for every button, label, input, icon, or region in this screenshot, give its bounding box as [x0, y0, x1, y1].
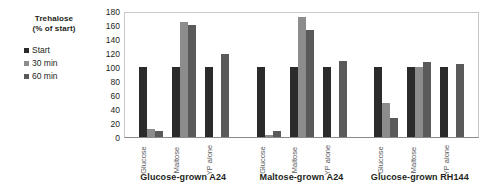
category-cell: YP alone [204, 139, 228, 171]
legend-swatch-30min [24, 61, 29, 66]
y-tick-100: 100 [106, 64, 120, 72]
legend-swatch-60min [24, 74, 29, 79]
category-label-glucose: Glucose [139, 146, 161, 174]
bar-cluster-yp-alone [323, 13, 347, 137]
category-group-3: GlucoseMaltoseYP alone [361, 139, 479, 171]
bar-30-min [180, 22, 188, 138]
category-cell: Glucose [138, 139, 162, 171]
bar-cluster-maltose [290, 13, 314, 137]
legend-label-start: Start [32, 45, 50, 56]
y-tick-0: 0 [115, 134, 120, 142]
legend-swatch-start [24, 48, 29, 53]
bar-start [139, 67, 147, 137]
bar-60-min [306, 30, 314, 137]
bar-start [440, 67, 448, 137]
category-label-glucose: Glucose [376, 146, 398, 174]
bar-start [290, 67, 298, 137]
bar-cluster-maltose [172, 13, 196, 137]
y-tick-160: 160 [106, 22, 120, 30]
legend-item-start: Start [24, 44, 102, 57]
group-title-2: Maltose-grown A24 [242, 172, 360, 182]
bar-30-min [298, 17, 306, 137]
category-group-2: GlucoseMaltoseYP alone [242, 139, 360, 171]
category-label-glucose: Glucose [257, 146, 279, 174]
bar-group-3 [360, 13, 478, 137]
bar-cluster-yp-alone [205, 13, 229, 137]
bar-cluster-glucose [374, 13, 398, 137]
y-tick-140: 140 [106, 36, 120, 44]
bar-30-min [265, 135, 273, 137]
y-tick-80: 80 [111, 78, 120, 86]
bar-30-min [147, 129, 155, 137]
category-cell: Glucose [375, 139, 399, 171]
x-axis-group-labels: Glucose-grown A24Maltose-grown A24Glucos… [124, 172, 479, 182]
bar-30-min [415, 67, 423, 137]
bar-60-min [221, 54, 229, 137]
bar-cluster-glucose [139, 13, 163, 137]
legend-item-60min: 60 min [24, 70, 102, 83]
category-label-maltose: Maltose [409, 147, 431, 173]
category-group-1: GlucoseMaltoseYP alone [124, 139, 242, 171]
legend-title-line2: (% of start) [6, 24, 102, 34]
bar-group-2 [243, 13, 361, 137]
bar-60-min [339, 61, 347, 137]
bar-start [374, 67, 382, 137]
y-tick-60: 60 [111, 92, 120, 100]
y-tick-40: 40 [111, 106, 120, 114]
bar-60-min [390, 118, 398, 137]
group-title-1: Glucose-grown A24 [124, 172, 242, 182]
legend-item-30min: 30 min [24, 57, 102, 70]
category-label-yp-alone: YP alone [442, 145, 464, 175]
category-cell: Maltose [171, 139, 195, 171]
legend-label-30min: 30 min [32, 58, 58, 69]
x-axis-category-labels: GlucoseMaltoseYP aloneGlucoseMaltoseYP a… [124, 139, 479, 171]
category-label-maltose: Maltose [290, 147, 312, 173]
bar-start [407, 67, 415, 137]
y-axis: 180160140120100806040200 [98, 8, 120, 138]
category-cell: Glucose [256, 139, 280, 171]
bar-start [205, 67, 213, 137]
bar-30-min [382, 103, 390, 137]
category-cell: YP alone [322, 139, 346, 171]
bar-60-min [423, 62, 431, 137]
bar-cluster-maltose [407, 13, 431, 137]
bar-start [257, 67, 265, 137]
bar-60-min [188, 25, 196, 137]
bar-start [323, 67, 331, 137]
category-cell: Maltose [289, 139, 313, 171]
bar-group-1 [125, 13, 243, 137]
plot-area [124, 12, 479, 138]
chart-figure: Trehalose (% of start) Start 30 min 60 m… [0, 0, 485, 191]
category-label-maltose: Maltose [172, 147, 194, 173]
category-label-yp-alone: YP alone [205, 145, 227, 175]
bar-start [172, 67, 180, 137]
category-cell: YP alone [441, 139, 465, 171]
y-tick-120: 120 [106, 50, 120, 58]
y-tick-20: 20 [111, 120, 120, 128]
legend-title-line1: Trehalose [6, 14, 102, 24]
legend-title: Trehalose (% of start) [6, 14, 102, 34]
category-label-yp-alone: YP alone [323, 145, 345, 175]
bar-60-min [273, 131, 281, 137]
bar-cluster-glucose [257, 13, 281, 137]
group-title-3: Glucose-grown RH144 [361, 172, 479, 182]
legend-label-60min: 60 min [32, 71, 58, 82]
legend-items: Start 30 min 60 min [6, 44, 102, 83]
category-cell: Maltose [408, 139, 432, 171]
chart-legend: Trehalose (% of start) Start 30 min 60 m… [6, 14, 102, 83]
bar-cluster-yp-alone [440, 13, 464, 137]
bar-groups [125, 13, 478, 137]
y-tick-180: 180 [106, 8, 120, 16]
bar-60-min [456, 64, 464, 138]
bar-60-min [155, 131, 163, 137]
